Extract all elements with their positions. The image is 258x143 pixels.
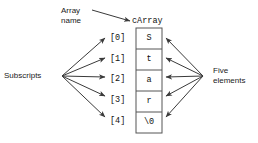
array-cell-value-0: S	[136, 33, 162, 43]
array-diagram: Array name Subscripts Five elements cArr…	[0, 0, 258, 143]
subscript-label-1: [1]	[110, 54, 125, 64]
subscript-label-3: [3]	[110, 95, 125, 105]
array-cell-value-2: a	[136, 75, 162, 85]
elements-arrows	[166, 38, 203, 117]
array-identifier-label: cArray	[132, 16, 163, 26]
array-cell-value-4: \0	[136, 117, 162, 127]
subscript-label-0: [0]	[110, 33, 125, 43]
array-cell-value-1: t	[136, 54, 162, 64]
array-name-arrow	[92, 10, 130, 21]
subscripts-arrows	[62, 38, 105, 117]
subscript-label-2: [2]	[110, 74, 125, 84]
five-elements-annotation: Five elements	[213, 66, 245, 86]
subscripts-annotation: Subscripts	[4, 71, 41, 81]
array-name-annotation: Array name	[61, 6, 81, 26]
subscript-label-4: [4]	[110, 116, 125, 126]
array-cell-value-3: r	[136, 96, 162, 106]
